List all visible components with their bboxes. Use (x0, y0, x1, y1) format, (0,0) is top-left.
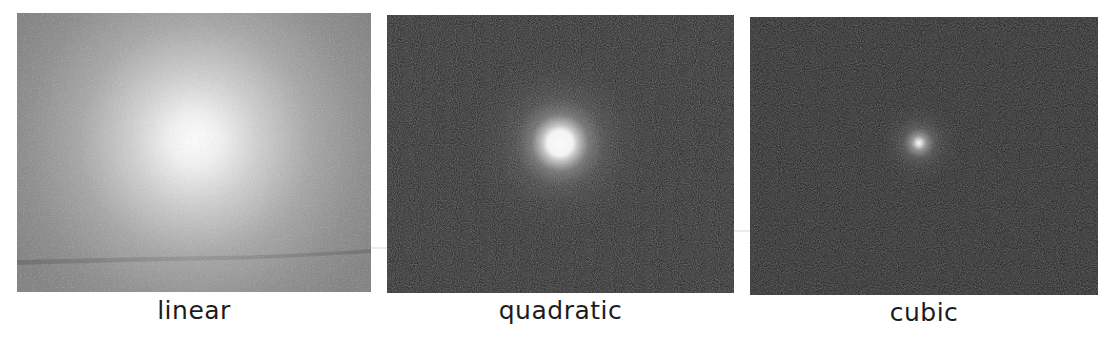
caption-quadratic: quadratic (387, 296, 734, 326)
quadratic-falloff-render (387, 15, 734, 293)
linear-falloff-render (17, 13, 371, 292)
divider-artifact (371, 247, 387, 249)
cubic-falloff-render (750, 17, 1098, 295)
quadratic-falloff-image (387, 15, 734, 293)
caption-linear: linear (17, 296, 371, 326)
caption-cubic: cubic (750, 298, 1098, 328)
divider-artifact (734, 230, 750, 232)
linear-falloff-image (17, 13, 371, 292)
cubic-falloff-image (750, 17, 1098, 295)
